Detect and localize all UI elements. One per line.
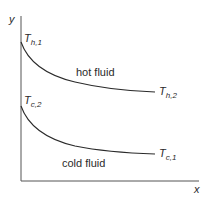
cold-inlet-temp-label: Tc,1 bbox=[159, 147, 176, 162]
cold-outlet-temp-label: Tc,2 bbox=[24, 94, 42, 109]
x-axis-label: x bbox=[193, 183, 200, 195]
cold-fluid-label: cold fluid bbox=[62, 157, 105, 169]
cold-fluid-curve bbox=[21, 106, 155, 154]
y-axis-label: y bbox=[8, 13, 16, 25]
hot-fluid-label: hot fluid bbox=[76, 66, 115, 78]
hot-outlet-temp-label: Th,2 bbox=[159, 85, 177, 100]
hot-inlet-temp-label: Th,1 bbox=[24, 32, 42, 47]
heat-exchanger-temperature-diagram: y x hot fluid Th,1 Th,2 cold fluid Tc,2 … bbox=[0, 0, 209, 200]
